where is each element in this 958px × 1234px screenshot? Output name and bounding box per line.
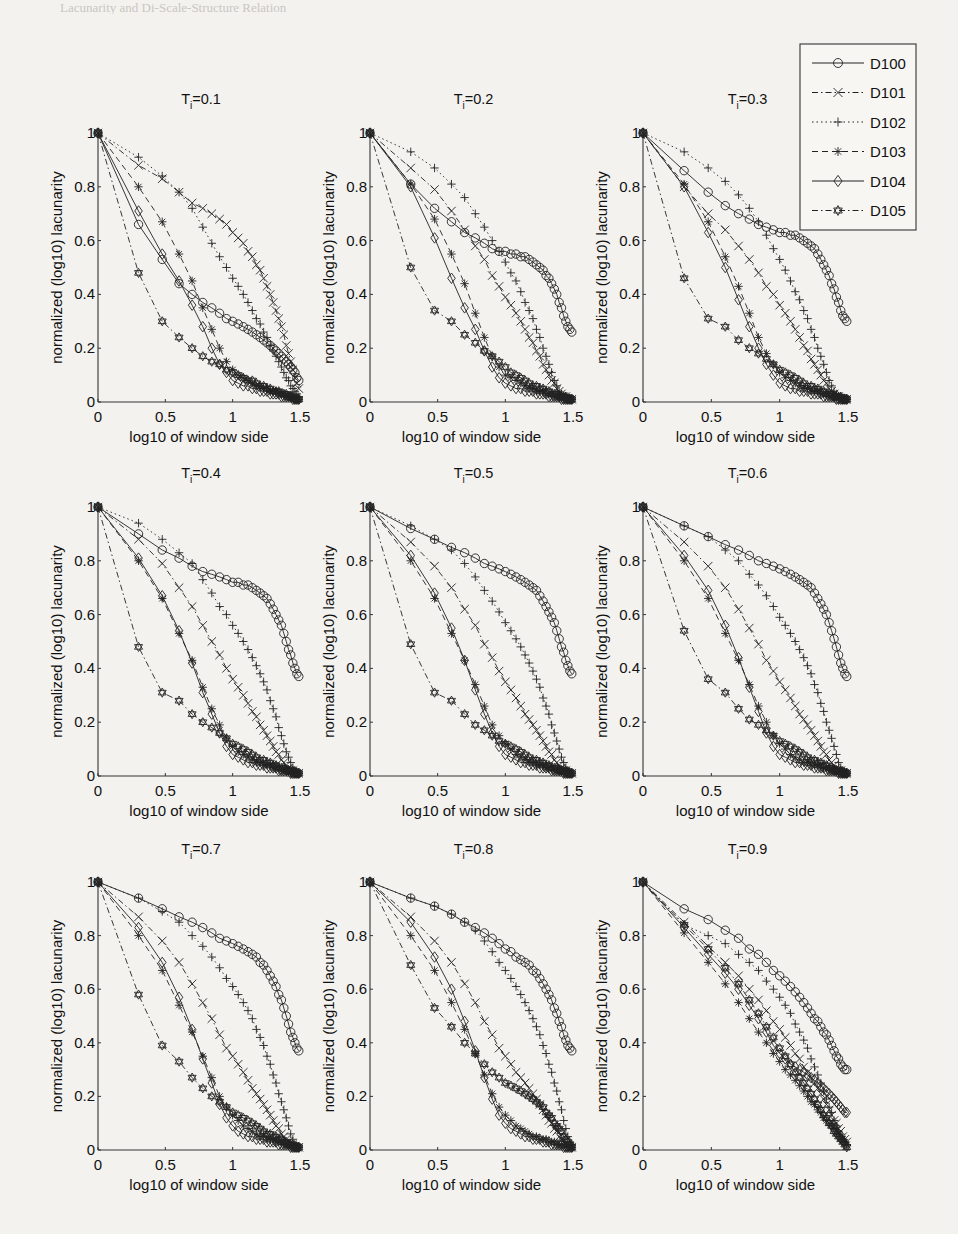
- y-tick-label: 0.2: [619, 339, 640, 356]
- y-tick-label: 0.6: [346, 232, 367, 249]
- subplot-title: Ti=0.5: [454, 465, 494, 485]
- series-d100: [639, 503, 851, 681]
- series-d100: [366, 503, 576, 678]
- series-d102: [366, 503, 576, 778]
- x-tick-label: 0.5: [427, 782, 448, 799]
- y-tick-label: 0.6: [74, 980, 95, 997]
- y-tick-label: 0.6: [346, 606, 367, 623]
- x-tick-label: 0: [94, 408, 102, 425]
- x-tick-label: 0.5: [427, 1156, 448, 1173]
- subplot-title: Ti=0.6: [728, 465, 768, 485]
- y-tick-label: 0.6: [619, 980, 640, 997]
- x-tick-label: 1.5: [563, 408, 584, 425]
- subplot-ti-0.5: Ti=0.500.20.40.60.8100.511.5log10 of win…: [320, 465, 583, 819]
- y-axis-title: normalized (log10) lacunarity: [48, 545, 65, 738]
- x-tick-label: 0: [639, 782, 647, 799]
- y-tick-label: 0.2: [346, 1087, 367, 1104]
- x-tick-label: 0.5: [701, 1156, 722, 1173]
- x-tick-label: 1: [228, 1156, 236, 1173]
- y-axis-title: normalized (log10) lacunarity: [48, 171, 65, 364]
- series-d101: [94, 503, 303, 778]
- x-axis-title: log10 of window side: [402, 428, 541, 445]
- series-d101: [366, 503, 576, 778]
- x-axis-title: log10 of window side: [676, 428, 815, 445]
- y-axis-title: normalized (log10) lacunarity: [593, 171, 610, 364]
- series-d105: [639, 877, 851, 1152]
- legend-label: D100: [870, 55, 906, 72]
- series-d103: [94, 503, 303, 778]
- x-tick-label: 0.5: [155, 408, 176, 425]
- y-tick-label: 0.8: [74, 927, 95, 944]
- y-axis-title: normalized (log10) lacunarity: [320, 545, 337, 738]
- x-tick-label: 0: [366, 1156, 374, 1173]
- x-axis-title: log10 of window side: [129, 1176, 268, 1193]
- subplot-title: Ti=0.7: [181, 841, 221, 861]
- x-axis-title: log10 of window side: [129, 802, 268, 819]
- series-d100: [94, 878, 303, 1055]
- x-tick-label: 0: [639, 1156, 647, 1173]
- y-tick-label: 0.6: [346, 980, 367, 997]
- subplot-title: Ti=0.8: [454, 841, 494, 861]
- x-axis-title: log10 of window side: [676, 1176, 815, 1193]
- y-tick-label: 0.2: [619, 713, 640, 730]
- y-tick-label: 0.2: [346, 339, 367, 356]
- series-d102: [94, 878, 303, 1152]
- subplot-title: Ti=0.1: [181, 91, 221, 111]
- x-tick-label: 0.5: [155, 1156, 176, 1173]
- x-tick-label: 1: [501, 408, 509, 425]
- x-tick-label: 0: [94, 782, 102, 799]
- lacunarity-figure: Ti=0.100.20.40.60.8100.511.5log10 of win…: [0, 0, 958, 1234]
- legend-label: D101: [870, 84, 906, 101]
- x-tick-label: 1: [228, 782, 236, 799]
- y-tick-label: 0.6: [619, 606, 640, 623]
- x-tick-label: 1.5: [838, 408, 859, 425]
- y-tick-label: 0.8: [74, 178, 95, 195]
- y-axis-title: normalized (log10) lacunarity: [320, 919, 337, 1112]
- y-tick-label: 0.8: [346, 552, 367, 569]
- x-tick-label: 0.5: [701, 408, 722, 425]
- subplot-grid: Ti=0.100.20.40.60.8100.511.5log10 of win…: [48, 91, 858, 1193]
- subplot-title: Ti=0.9: [728, 841, 768, 861]
- subplot-title: Ti=0.3: [728, 91, 768, 111]
- series-d105: [639, 502, 851, 778]
- series-d100: [366, 129, 576, 336]
- y-tick-label: 0.4: [619, 659, 640, 676]
- subplot-ti-0.2: Ti=0.200.20.40.60.8100.511.5log10 of win…: [320, 91, 583, 445]
- y-tick-label: 0.8: [619, 178, 640, 195]
- x-axis-title: log10 of window side: [402, 1176, 541, 1193]
- x-axis-title: log10 of window side: [129, 428, 268, 445]
- y-axis-title: normalized (log10) lacunarity: [593, 919, 610, 1112]
- x-axis-title: log10 of window side: [676, 802, 815, 819]
- y-tick-label: 0.4: [346, 659, 367, 676]
- series-d100: [366, 878, 576, 1055]
- y-tick-label: 0.4: [74, 285, 95, 302]
- y-axis-title: normalized (log10) lacunarity: [320, 171, 337, 364]
- y-tick-label: 0.8: [619, 552, 640, 569]
- y-tick-label: 0.8: [346, 927, 367, 944]
- y-axis-title: normalized (log10) lacunarity: [593, 545, 610, 738]
- x-tick-label: 0: [639, 408, 647, 425]
- y-tick-label: 0.2: [619, 1087, 640, 1104]
- y-tick-label: 0.8: [619, 927, 640, 944]
- y-tick-label: 0.4: [74, 1034, 95, 1051]
- subplot-ti-0.1: Ti=0.100.20.40.60.8100.511.5log10 of win…: [48, 91, 310, 445]
- y-tick-label: 0.6: [74, 232, 95, 249]
- y-tick-label: 0.6: [74, 606, 95, 623]
- y-tick-label: 0.4: [346, 1034, 367, 1051]
- x-tick-label: 1: [775, 408, 783, 425]
- subplot-ti-0.9: Ti=0.900.20.40.60.8100.511.5log10 of win…: [593, 841, 858, 1193]
- x-tick-label: 0.5: [155, 782, 176, 799]
- y-tick-label: 0.2: [74, 339, 95, 356]
- x-tick-label: 1: [501, 1156, 509, 1173]
- legend-label: D104: [870, 173, 906, 190]
- y-tick-label: 0.8: [346, 178, 367, 195]
- subplot-ti-0.7: Ti=0.700.20.40.60.8100.511.5log10 of win…: [48, 841, 310, 1193]
- series-d101: [639, 503, 851, 778]
- subplot-title: Ti=0.2: [454, 91, 494, 111]
- series-d101: [94, 878, 303, 1152]
- x-tick-label: 1.5: [563, 782, 584, 799]
- legend-label: D102: [870, 114, 906, 131]
- x-tick-label: 1.5: [290, 782, 311, 799]
- series-d103: [366, 503, 576, 778]
- legend-label: D105: [870, 202, 906, 219]
